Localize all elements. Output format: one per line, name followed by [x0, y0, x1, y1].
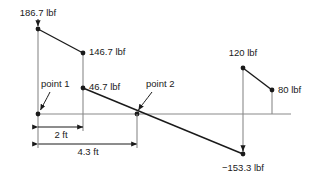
label-point-2: point 2: [146, 79, 175, 89]
leader-point-2: [139, 92, 153, 110]
point-marker-186: [36, 27, 41, 32]
label-dimension-43ft: 4.3 ft: [77, 147, 98, 157]
label-force-46: 46.7 lbf: [89, 82, 120, 92]
point-marker-153: [241, 152, 246, 157]
point-marker-146: [81, 51, 86, 56]
point-marker-point1: [36, 112, 41, 117]
diagram-canvas: [0, 0, 318, 186]
label-point-1: point 1: [41, 79, 70, 89]
label-force-120: 120 lbf: [229, 48, 258, 58]
label-dimension-2ft: 2 ft: [54, 130, 67, 140]
label-force-146: 146.7 lbf: [89, 47, 125, 57]
point-marker-80: [270, 88, 275, 93]
force-diagram: 186.7 lbf 146.7 lbf 46.7 lbf point 1 poi…: [0, 0, 318, 186]
label-force-80: 80 lbf: [278, 85, 301, 95]
point-marker-120: [241, 66, 246, 71]
point-marker-46: [81, 86, 86, 91]
label-force-153: −153.3 lbf: [222, 163, 264, 173]
force-line-left-upper: [38, 29, 83, 53]
leader-point-1: [41, 92, 51, 110]
label-force-186: 186.7 lbf: [20, 8, 56, 18]
force-line-right-slope: [243, 68, 272, 90]
